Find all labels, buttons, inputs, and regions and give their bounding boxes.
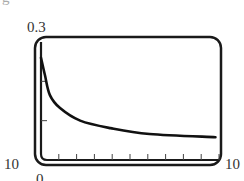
plot-area <box>0 0 244 181</box>
axis-lines <box>41 42 219 160</box>
viewing-window-frame <box>35 37 221 165</box>
axes <box>41 42 219 160</box>
axis-ticks <box>41 81 219 160</box>
data-curve <box>41 58 215 137</box>
